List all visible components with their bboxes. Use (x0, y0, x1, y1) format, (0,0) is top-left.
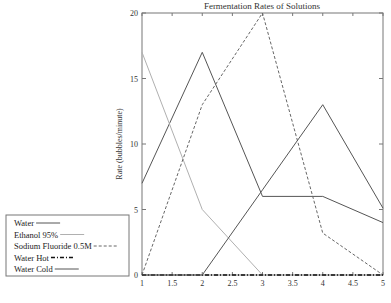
y-tick-label: 10 (130, 140, 138, 149)
x-tick-label: 3 (261, 279, 265, 288)
series-lines (142, 13, 383, 275)
x-tick-label: 2.5 (227, 279, 237, 288)
y-axis-ticks: 05101520 (130, 9, 383, 280)
x-tick-label: 3.5 (288, 279, 298, 288)
x-tick-label: 5 (381, 279, 385, 288)
legend: WaterEthanol 95%Sodium Fluoride 0.5MWate… (6, 215, 129, 276)
legend-label: Water Cold (14, 264, 53, 274)
legend-label: Water (14, 218, 34, 228)
legend-label: Sodium Fluoride 0.5M (14, 241, 92, 251)
x-tick-label: 1 (140, 279, 144, 288)
series-line-water (142, 52, 383, 222)
y-tick-label: 0 (134, 271, 138, 280)
x-tick-label: 2 (200, 279, 204, 288)
y-tick-label: 20 (130, 9, 138, 18)
legend-label: Water Hot (14, 253, 50, 263)
y-tick-label: 5 (134, 206, 138, 215)
x-tick-label: 4.5 (348, 279, 358, 288)
x-tick-label: 1.5 (167, 279, 177, 288)
series-line-ethanol-95- (142, 52, 383, 275)
plot-area: 11.522.533.544.55 05101520 (130, 9, 385, 288)
plot-frame (142, 13, 383, 275)
y-tick-label: 15 (130, 75, 138, 84)
x-tick-label: 4 (321, 279, 325, 288)
line-chart: Fermentation Rates of Solutions 11.522.5… (0, 0, 391, 303)
series-line-sodium-fluoride-0-5m (142, 13, 383, 275)
x-axis-ticks: 11.522.533.544.55 (140, 13, 385, 288)
y-axis-label: Rate (bubbles/minute) (115, 108, 124, 180)
chart-title: Fermentation Rates of Solutions (204, 1, 321, 11)
legend-label: Ethanol 95% (14, 230, 58, 240)
